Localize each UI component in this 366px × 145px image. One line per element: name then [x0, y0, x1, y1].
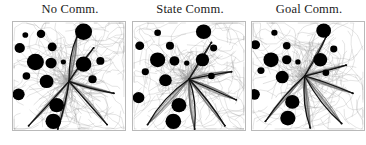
- plot-canvas-state-comm: [133, 22, 245, 130]
- exploration-edge: [224, 50, 244, 64]
- exploration-edge: [139, 27, 145, 43]
- panel-title-state-comm: State Comm.: [132, 0, 248, 19]
- exploration-edge: [232, 60, 244, 91]
- exploration-edge: [235, 67, 244, 92]
- exploration-edge: [27, 37, 64, 48]
- path-endpoint-marker: [93, 47, 95, 49]
- obstacle-circle: [196, 24, 211, 39]
- exploration-edge: [350, 67, 363, 99]
- exploration-edge: [227, 36, 244, 40]
- obstacle-circle: [150, 52, 165, 67]
- exploration-edge: [140, 48, 142, 65]
- exploration-edge: [357, 100, 363, 124]
- exploration-edge: [134, 104, 138, 128]
- obstacle-circle: [49, 98, 64, 112]
- obstacle-circle: [13, 89, 25, 101]
- exploration-edge: [156, 31, 202, 46]
- panel-no-comm: No Comm.: [12, 0, 128, 145]
- path-endpoint-marker: [231, 71, 233, 73]
- obstacle-circle: [172, 98, 187, 112]
- obstacle-circle: [165, 114, 181, 129]
- obstacle-circle: [154, 30, 161, 36]
- obstacle-circle: [23, 72, 31, 79]
- exploration-edge: [143, 75, 145, 95]
- plot-canvas-goal-comm: [252, 22, 364, 130]
- exploration-edge: [207, 23, 237, 33]
- path-endpoint-marker: [57, 128, 59, 130]
- exploration-edge: [350, 23, 354, 36]
- obstacle-circle: [263, 52, 278, 67]
- panel-goal-comm: Goal Comm.: [251, 0, 366, 145]
- obstacle-circle: [96, 57, 104, 65]
- exploration-edge: [214, 76, 243, 89]
- panel-state-comm: State Comm.: [132, 0, 248, 145]
- obstacle-circle: [37, 30, 46, 38]
- obstacle-circle: [184, 60, 189, 65]
- plot-canvas-no-comm: [13, 22, 125, 130]
- exploration-edge: [78, 116, 93, 129]
- exploration-edge: [216, 48, 240, 61]
- obstacle-circle: [159, 74, 172, 86]
- exploration-edge: [14, 126, 18, 129]
- obstacle-circle: [135, 41, 144, 50]
- exploration-edge: [110, 58, 124, 97]
- obstacle-circle: [75, 24, 92, 40]
- path-endpoint-marker: [224, 125, 226, 127]
- path-endpoint-marker: [352, 92, 354, 94]
- figure-root: No Comm. State Comm. Goal Comm.: [0, 0, 366, 145]
- exploration-edge: [147, 23, 164, 28]
- obstacle-circle: [323, 70, 330, 76]
- exploration-edge: [15, 85, 25, 88]
- exploration-edge: [96, 23, 121, 60]
- obstacle-circle: [196, 53, 209, 66]
- exploration-edge: [233, 126, 244, 128]
- obstacle-circle: [276, 71, 289, 84]
- path-endpoint-marker: [345, 64, 347, 66]
- exploration-edge: [309, 95, 349, 124]
- obstacle-circle: [257, 67, 264, 74]
- obstacle-circle: [210, 44, 217, 51]
- obstacle-circle: [285, 95, 299, 109]
- exploration-edge: [14, 23, 39, 40]
- obstacle-circle: [280, 111, 295, 126]
- obstacle-circle: [40, 75, 54, 88]
- exploration-edge: [106, 26, 124, 40]
- exploration-edge: [68, 109, 89, 129]
- exploration-edge: [227, 116, 241, 129]
- exploration-edge: [134, 76, 147, 88]
- exploration-edge: [345, 107, 363, 119]
- obstacle-circle: [316, 24, 331, 38]
- obstacle-circle: [133, 92, 144, 103]
- obstacle-circle: [48, 43, 57, 52]
- path-endpoint-marker: [194, 128, 196, 130]
- obstacle-circle: [271, 30, 277, 36]
- path-endpoint-marker: [210, 42, 212, 44]
- exploration-edge: [336, 31, 354, 78]
- exploration-edge: [253, 114, 269, 129]
- obstacle-circle: [45, 114, 61, 129]
- plot-frame-goal-comm: [251, 21, 365, 131]
- panel-title-goal-comm: Goal Comm.: [251, 0, 366, 19]
- exploration-edge: [341, 74, 363, 89]
- exploration-edge: [267, 23, 296, 35]
- obstacle-circle: [45, 58, 56, 69]
- obstacle-circle: [76, 57, 92, 72]
- obstacle-circle: [166, 42, 174, 50]
- exploration-edge: [108, 23, 110, 25]
- exploration-edge: [14, 64, 26, 68]
- exploration-edge: [253, 107, 267, 114]
- exploration-edge: [253, 62, 257, 75]
- obstacle-circle: [330, 46, 337, 53]
- obstacle-circle: [27, 54, 44, 70]
- exploration-edge: [144, 91, 162, 105]
- path-endpoint-marker: [113, 92, 115, 94]
- obstacle-circle: [170, 56, 180, 66]
- obstacle-circle: [282, 55, 291, 64]
- path-endpoint-marker: [28, 125, 30, 127]
- obstacle-circle: [208, 73, 215, 79]
- exploration-edge: [209, 23, 231, 45]
- exploration-edge: [228, 65, 233, 100]
- obstacle-circle: [252, 40, 260, 49]
- exploration-edge: [60, 126, 89, 129]
- obstacle-circle: [295, 59, 300, 64]
